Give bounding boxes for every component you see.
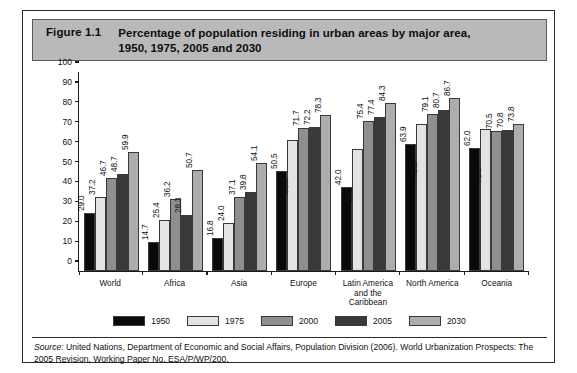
bar-group: 50.535.671.772.278.3	[272, 72, 336, 271]
bar-value-label: 75.4	[356, 103, 365, 119]
legend-item[interactable]: 2005	[335, 316, 392, 326]
bar[interactable]: 78.3	[320, 115, 331, 271]
bar-value-label: 37.1	[227, 180, 236, 196]
legend-item[interactable]: 2000	[261, 316, 318, 326]
bar[interactable]: 48.7	[117, 174, 128, 271]
bar[interactable]: 14.7	[148, 242, 159, 271]
figure-title-line1: Percentage of population residing in urb…	[118, 27, 470, 39]
bar[interactable]: 73.8	[416, 124, 427, 271]
y-axis-tick-label: 60	[63, 137, 75, 147]
figure-title-banner: Figure 1.1 Percentage of population resi…	[32, 19, 547, 61]
y-axis-tick-mark	[75, 61, 79, 62]
legend-swatch	[335, 316, 367, 326]
y-axis-tick-label: 90	[63, 77, 75, 87]
bar-value-label: 28.3	[174, 197, 183, 213]
bar-value-label: 59.9	[121, 134, 130, 150]
x-axis-category-label: Europe	[271, 274, 335, 306]
bar-group: 16.824.037.139.854.1	[208, 72, 272, 271]
y-axis-tick: 10	[63, 236, 79, 246]
bar[interactable]: 72.2	[309, 127, 320, 271]
bar-value-label: 39.8	[238, 174, 247, 190]
bar[interactable]: 70.8	[502, 130, 513, 271]
bar[interactable]: 61.2	[352, 149, 363, 271]
bar-value-label: 71.5	[473, 167, 482, 183]
bar[interactable]: 75.4	[363, 121, 374, 271]
x-axis-category-label-line: Caribbean	[336, 298, 400, 308]
bar-value-label: 78.3	[313, 98, 322, 114]
y-axis-tick-label: 20	[63, 216, 75, 226]
y-axis-tick: 90	[63, 77, 79, 87]
bar-group: 42.061.275.477.484.3	[336, 72, 400, 271]
figure-number: Figure 1.1	[33, 26, 101, 38]
x-axis-category-label: North America	[400, 274, 464, 306]
x-axis-category-labels: WorldAfricaAsiaEuropeLatin Americaand th…	[78, 274, 529, 306]
bar[interactable]: 35.6	[287, 140, 298, 271]
y-axis-tick: 40	[63, 176, 79, 186]
bar[interactable]: 71.5	[480, 129, 491, 271]
legend-item[interactable]: 1975	[187, 316, 244, 326]
y-axis-tick: 80	[63, 97, 79, 107]
bar[interactable]: 84.3	[385, 103, 396, 271]
bar-value-label: 86.7	[442, 81, 451, 97]
y-axis-tick-label: 10	[63, 236, 75, 246]
y-axis-tick: 70	[63, 117, 79, 127]
bar[interactable]: 80.7	[438, 110, 449, 271]
bar[interactable]: 24.0	[223, 223, 234, 271]
bar[interactable]: 37.1	[234, 197, 245, 271]
bar[interactable]: 16.8	[212, 238, 223, 271]
bar[interactable]: 71.7	[298, 128, 309, 271]
bar-value-label: 73.8	[506, 107, 515, 123]
bar[interactable]: 37.2	[95, 197, 106, 271]
bar[interactable]: 50.7	[192, 170, 203, 271]
bar-value-label: 63.9	[398, 126, 407, 142]
bar[interactable]: 28.3	[181, 215, 192, 271]
bar[interactable]: 39.8	[245, 192, 256, 271]
y-axis-tick-label: 100	[58, 57, 75, 67]
legend-swatch	[409, 316, 441, 326]
y-axis-tick: 50	[63, 157, 79, 167]
legend-item[interactable]: 1950	[113, 316, 170, 326]
bar[interactable]: 59.9	[128, 152, 139, 271]
bar[interactable]: 29.0	[84, 213, 95, 271]
bar-value-label: 16.8	[205, 220, 214, 236]
legend-label: 2000	[299, 316, 318, 326]
legend-label: 1975	[225, 316, 244, 326]
figure-root: Figure 1.1 Percentage of population resi…	[0, 0, 577, 373]
x-axis-category-label-line: Africa	[142, 279, 206, 289]
source-divider	[32, 337, 547, 338]
bar-value-label: 50.5	[269, 153, 278, 169]
x-axis-category-label: World	[78, 274, 142, 306]
bar-group: 62.071.570.570.873.8	[465, 72, 529, 271]
bar[interactable]: 70.5	[491, 131, 502, 271]
chart-legend: 19501975200020052030	[32, 311, 547, 331]
bar[interactable]: 77.4	[374, 117, 385, 271]
source-text: United Nations, Department of Economic a…	[34, 342, 533, 364]
bar-value-label: 35.6	[280, 179, 289, 195]
x-axis-category-label-line: North America	[400, 279, 464, 289]
bar[interactable]: 46.7	[106, 178, 117, 271]
bar-value-label: 80.7	[431, 93, 440, 109]
legend-label: 2030	[447, 316, 466, 326]
bar-value-label: 71.7	[291, 111, 300, 127]
legend-label: 2005	[373, 316, 392, 326]
bar-value-label: 14.7	[141, 224, 150, 240]
y-axis-tick-label: 40	[63, 176, 75, 186]
bar[interactable]: 79.1	[427, 114, 438, 271]
bar[interactable]: 54.1	[256, 163, 267, 271]
chart-plot-area: 0102030405060708090100 29.037.246.748.75…	[78, 72, 529, 272]
bar-group: 14.725.436.228.350.7	[143, 72, 207, 271]
y-axis-tick: 20	[63, 216, 79, 226]
y-axis-tick: 0	[67, 256, 79, 266]
bar[interactable]: 25.4	[159, 220, 170, 271]
bar[interactable]: 73.8	[513, 124, 524, 271]
bar-value-label: 62.0	[462, 130, 471, 146]
bar[interactable]: 86.7	[449, 98, 460, 271]
bar-value-label: 79.1	[420, 96, 429, 112]
bar-groups: 29.037.246.748.759.914.725.436.228.350.7…	[79, 72, 529, 271]
legend-item[interactable]: 2030	[409, 316, 466, 326]
y-axis-tick-label: 80	[63, 97, 75, 107]
source-label: Source:	[34, 342, 64, 352]
legend-swatch	[261, 316, 293, 326]
bar-value-label: 73.8	[409, 163, 418, 179]
bar-group: 29.037.246.748.759.9	[79, 72, 143, 271]
